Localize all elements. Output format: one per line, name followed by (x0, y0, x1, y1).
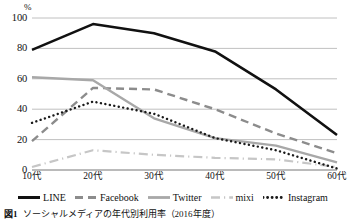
y-axis-unit-label: % (24, 3, 32, 12)
series-line-facebook (32, 88, 337, 153)
x-axis-tick-label: 50代 (266, 172, 286, 182)
legend-swatch-mixi-icon (211, 193, 233, 202)
figure-number: 図1 (4, 209, 18, 219)
legend-label: mixi (236, 193, 254, 203)
x-axis-tick-label: 30代 (144, 172, 164, 182)
figure-caption: 図1ソーシャルメディアの年代別利用率（2016年度） (4, 208, 346, 220)
legend-label: LINE (43, 193, 66, 203)
legend-label: Instagram (288, 193, 328, 203)
legend-swatch-twitter-icon (148, 193, 170, 202)
y-axis-tick-label: 60 (17, 74, 27, 85)
legend-item-instagram[interactable]: Instagram (263, 193, 328, 203)
x-axis: 10代20代30代40代50代60代 (32, 172, 337, 186)
series-line-instagram (32, 102, 337, 169)
legend-item-facebook[interactable]: Facebook (75, 193, 139, 203)
legend-swatch-instagram-icon (263, 193, 285, 202)
legend-swatch-line-icon (18, 193, 40, 202)
legend-label: Facebook (100, 193, 139, 203)
x-axis-tick-label: 20代 (83, 172, 103, 182)
x-axis-tick-label: 40代 (205, 172, 225, 182)
y-axis-tick-label: 20 (17, 134, 27, 145)
legend-item-line[interactable]: LINE (18, 193, 66, 203)
y-axis: 100806040200 (0, 18, 30, 170)
series-line-twitter (32, 77, 337, 162)
legend-label: Twitter (173, 193, 202, 203)
y-axis-tick-label: 100 (12, 13, 27, 24)
x-axis-tick-label: 60代 (327, 172, 347, 182)
legend-item-mixi[interactable]: mixi (211, 193, 254, 203)
chart-legend: LINEFacebookTwittermixiInstagram (0, 190, 346, 205)
y-axis-tick-label: 80 (17, 43, 27, 54)
x-axis-tick-label: 10代 (22, 172, 42, 182)
legend-item-twitter[interactable]: Twitter (148, 193, 202, 203)
plot-area (32, 18, 337, 170)
series-lines (32, 18, 337, 170)
legend-swatch-facebook-icon (75, 193, 97, 202)
figure-caption-text: ソーシャルメディアの年代別利用率（2016年度） (23, 209, 220, 219)
series-line-mixi (32, 150, 337, 167)
y-axis-tick-label: 40 (17, 104, 27, 115)
